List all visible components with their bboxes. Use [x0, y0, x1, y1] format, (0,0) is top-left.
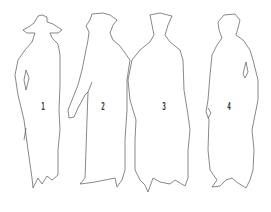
figure-2-outline — [68, 13, 130, 187]
figure-2-number: 2 — [101, 101, 105, 112]
figure-3-outline — [128, 13, 190, 192]
figure-1-outline — [15, 15, 62, 188]
figure-3-number: 3 — [162, 101, 166, 112]
figure-1-number: 1 — [41, 101, 45, 112]
figure-4-number: 4 — [227, 101, 231, 112]
figure-4-outline — [206, 14, 258, 188]
